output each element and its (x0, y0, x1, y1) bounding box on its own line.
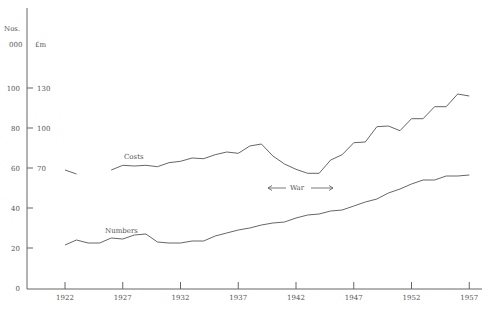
chart-canvas: 0204060801007010013019221927193219371942… (0, 0, 497, 309)
y-tick-label: 20 (11, 245, 20, 253)
x-tick-label: 1937 (229, 294, 247, 302)
costs-series-label: Costs (124, 153, 144, 161)
x-tick-label: 1922 (56, 294, 74, 302)
y-axis-label-pounds: £m (35, 41, 46, 49)
y-tick-label: 40 (11, 205, 20, 213)
y-tick-label-costs: 100 (37, 125, 50, 133)
x-tick-label: 1932 (172, 294, 190, 302)
x-tick-label: 1927 (114, 294, 132, 302)
numbers-series-label: Numbers (105, 227, 138, 235)
y-tick-label: 60 (11, 165, 20, 173)
x-tick-label: 1942 (287, 294, 305, 302)
y-tick-label: 100 (7, 85, 20, 93)
y-tick-label: 80 (11, 125, 20, 133)
series-lines (65, 94, 469, 245)
x-tick-label: 1952 (403, 294, 421, 302)
costs-line (111, 94, 469, 173)
axes: 0204060801007010013019221927193219371942… (7, 8, 482, 302)
y-axis-label-nos: Nos. (4, 25, 20, 33)
y-tick-label: 0 (16, 285, 20, 293)
war-label: War (290, 184, 304, 192)
x-tick-label: 1947 (345, 294, 363, 302)
costs-line (65, 170, 77, 174)
y-tick-label-costs: 130 (37, 85, 50, 93)
y-tick-label-costs: 70 (37, 165, 46, 173)
y-axis-label-thousands: 000 (9, 41, 22, 49)
x-tick-label: 1957 (460, 294, 478, 302)
